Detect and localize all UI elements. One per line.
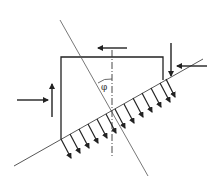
inclined-plane-line: [14, 59, 203, 166]
angle-label-phi: φ: [101, 82, 107, 92]
distributed-load-arrows: [61, 79, 175, 158]
force-diagram: [0, 0, 216, 184]
